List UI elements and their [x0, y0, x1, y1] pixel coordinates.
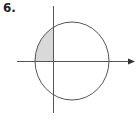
diagram-canvas — [0, 0, 140, 121]
x-axis-arrow-icon — [128, 59, 135, 65]
